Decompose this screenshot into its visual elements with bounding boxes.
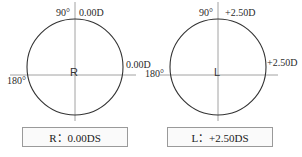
left-axis-180-label: 180° [145,69,164,79]
left-eye-result-box: L：+2.50DS [167,127,273,147]
right-axis-90-label: 90° [56,8,70,18]
right-eye-power-cross [10,2,136,121]
right-eye-letter: R [70,67,78,78]
left-eye-letter: L [214,67,220,78]
left-power-90-label: +2.50D [225,8,255,18]
right-eye-result-box: R：0.00DS [22,127,128,147]
right-axis-180-label: 180° [7,76,26,86]
left-axis-90-label: 90° [199,8,213,18]
left-eye-result-text: L：+2.50DS [191,129,248,145]
left-power-180-label: +2.50D [267,58,297,68]
right-eye-result-text: R：0.00DS [49,129,101,145]
right-power-90-label: 0.00D [79,8,104,18]
left-eye-power-cross [160,2,278,121]
